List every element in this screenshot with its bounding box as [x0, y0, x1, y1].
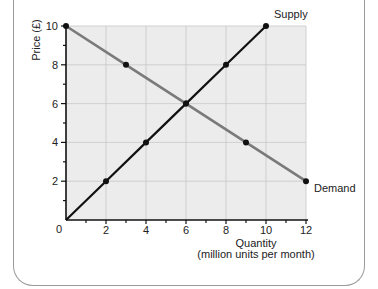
- y-tick-label: 6: [52, 98, 58, 110]
- data-point-marker: [123, 62, 129, 68]
- origin-label: 0: [56, 223, 62, 235]
- data-point-marker: [103, 178, 109, 184]
- y-axis-label: Price (£): [30, 19, 42, 61]
- y-tick-label: 8: [52, 59, 58, 71]
- x-tick-label: 12: [300, 224, 312, 236]
- x-tick-label: 2: [103, 224, 109, 236]
- y-tick-label: 4: [52, 136, 58, 148]
- x-tick-label: 4: [143, 224, 149, 236]
- data-point-marker: [63, 23, 69, 29]
- y-tick-label: 10: [46, 20, 58, 32]
- data-point-marker: [143, 139, 149, 145]
- data-point-marker: [303, 178, 309, 184]
- data-point-marker: [223, 62, 229, 68]
- x-axis-sublabel: (million units per month): [197, 248, 314, 260]
- y-tick-label: 2: [52, 175, 58, 187]
- data-point-marker: [263, 23, 269, 29]
- x-tick-label: 6: [183, 224, 189, 236]
- x-tick-label: 8: [223, 224, 229, 236]
- supply-label: Supply: [274, 8, 308, 20]
- supply-demand-chart: 24681012246810 SupplyDemand Price (£) Qu…: [0, 0, 378, 289]
- data-point-marker: [243, 139, 249, 145]
- demand-label: Demand: [314, 182, 356, 194]
- data-point-marker: [183, 101, 189, 107]
- x-tick-label: 10: [260, 224, 272, 236]
